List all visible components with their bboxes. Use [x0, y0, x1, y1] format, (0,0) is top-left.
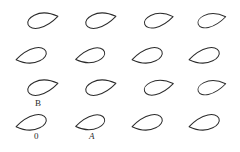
teardrop-shape [84, 6, 116, 36]
shape-row-2 [16, 40, 221, 70]
teardrop-shape [84, 73, 116, 103]
teardrop-array-svg [0, 0, 240, 152]
teardrop-shape [196, 74, 225, 102]
teardrop-shape [76, 41, 107, 70]
teardrop-shape [26, 6, 58, 36]
teardrop-shape [16, 107, 48, 137]
teardrop-shape [189, 107, 221, 137]
point-label-b: B [35, 99, 41, 108]
teardrop-shape [132, 107, 164, 137]
shape-row-1 [26, 6, 226, 36]
teardrop-shape [189, 40, 221, 70]
teardrop-shape [132, 40, 164, 70]
teardrop-shape [196, 7, 225, 35]
shape-row-4 [16, 107, 221, 137]
shape-row-3 [26, 73, 226, 103]
teardrop-shape [143, 7, 173, 36]
point-label-o: 0 [34, 132, 39, 141]
teardrop-shape [26, 73, 58, 103]
teardrop-shape [16, 40, 48, 70]
teardrop-shape [143, 73, 174, 102]
figure-canvas: B 0 A [0, 0, 240, 152]
point-label-a: A [89, 132, 95, 141]
